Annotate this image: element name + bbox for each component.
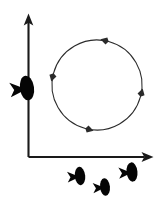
cycle-arc-top-right — [100, 37, 142, 96]
cycle-diagram-figure — [0, 0, 163, 206]
cycle-arc-bottom-left-path — [52, 73, 85, 128]
cycle-arc-top-right-path — [109, 42, 142, 97]
cycle-arc-bottom-right — [85, 88, 144, 130]
cycle-arc-top-left — [49, 40, 108, 82]
cycle-arrow-head-top-icon — [100, 37, 108, 44]
fish-on-y-axis-icon — [8, 75, 36, 103]
cycle-arc-bottom-left — [52, 73, 94, 132]
diagram-canvas — [0, 0, 163, 206]
cycle-arrow-group — [49, 37, 144, 132]
fish-below-axis-middle-icon — [92, 178, 111, 197]
fish-below-axis-left-icon — [66, 166, 86, 186]
cycle-arc-bottom-right-path — [85, 97, 140, 130]
fish-below-axis-right-icon — [118, 162, 139, 183]
x-axis — [29, 152, 154, 162]
cycle-arc-top-left-path — [54, 40, 109, 73]
axis-group — [24, 14, 154, 163]
